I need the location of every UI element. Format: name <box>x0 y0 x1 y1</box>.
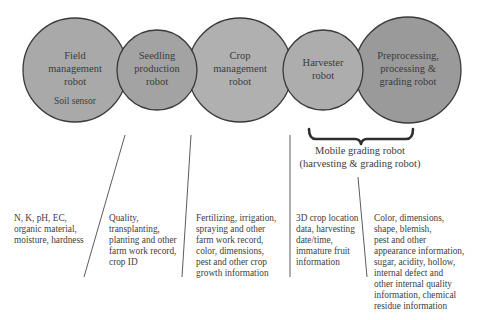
label-soil-sensor: Soil sensor <box>25 96 125 106</box>
info-field-management: N, K, pH, EC, organic material, moisture… <box>14 213 84 246</box>
info-line: other internal quality <box>374 279 464 290</box>
info-line: pest and other crop <box>196 257 276 268</box>
info-line: Quality, <box>109 213 177 224</box>
label-harvester-robot: Harvester robot <box>283 56 363 82</box>
label-line: management <box>190 62 290 75</box>
info-seedling-production: Quality, transplanting, planting and oth… <box>109 213 177 268</box>
label-line: Crop <box>190 49 290 62</box>
info-line: immature fruit <box>296 246 358 257</box>
label-line: management <box>25 62 125 75</box>
curly-brace <box>309 129 413 144</box>
info-line: N, K, pH, EC, <box>14 213 84 224</box>
divider-line-2 <box>182 135 191 277</box>
info-line: moisture, hardness <box>14 235 84 246</box>
info-line: date/time, <box>296 235 358 246</box>
info-line: transplanting, <box>109 224 177 235</box>
info-harvester: 3D crop location data, harvesting date/t… <box>296 213 358 268</box>
info-line: 3D crop location <box>296 213 358 224</box>
label-mobile-grading-robot: Mobile grading robot (harvesting & gradi… <box>290 144 430 170</box>
label-seedling-production-robot: Seedling production robot <box>117 49 197 88</box>
info-line: shape, blemish, <box>374 224 464 235</box>
label-line: production <box>117 62 197 75</box>
info-line: internal defect and <box>374 268 464 279</box>
info-line: farm work record, <box>196 235 276 246</box>
label-line: Field <box>25 49 125 62</box>
info-line: data, harvesting <box>296 224 358 235</box>
info-line: organic material, <box>14 224 84 235</box>
label-crop-management-robot: Crop management robot <box>190 49 290 88</box>
info-line: residue information <box>374 301 464 312</box>
info-line: planting and other <box>109 235 177 246</box>
info-line: appearance information, <box>374 246 464 257</box>
info-line: farm work record, <box>109 246 177 257</box>
info-line: Color, dimensions, <box>374 213 464 224</box>
label-line: Seedling <box>117 49 197 62</box>
label-line: robot <box>117 75 197 88</box>
brace-label-line: (harvesting & grading robot) <box>290 157 430 170</box>
label-line: robot <box>283 69 363 82</box>
label-line: Harvester <box>283 56 363 69</box>
label-field-management-robot: Field management robot <box>25 49 125 88</box>
label-line: robot <box>190 75 290 88</box>
label-line: robot <box>25 75 125 88</box>
label-line: processing & <box>358 62 458 75</box>
divider-line-4 <box>358 177 367 277</box>
info-line: growth information <box>196 268 276 279</box>
info-line: information <box>296 257 358 268</box>
label-line: Preprocessing, <box>358 49 458 62</box>
info-line: spraying and other <box>196 224 276 235</box>
info-line: crop ID <box>109 257 177 268</box>
info-line: pest and other <box>374 235 464 246</box>
info-line: Fertilizing, irrigation, <box>196 213 276 224</box>
brace-label-line: Mobile grading robot <box>290 144 430 157</box>
label-preprocessing-robot: Preprocessing, processing & grading robo… <box>358 49 458 88</box>
info-line: information, chemical <box>374 290 464 301</box>
info-line: color, dimensions, <box>196 246 276 257</box>
info-preprocessing: Color, dimensions, shape, blemish, pest … <box>374 213 464 312</box>
label-line: grading robot <box>358 75 458 88</box>
info-crop-management: Fertilizing, irrigation, spraying and ot… <box>196 213 276 279</box>
info-line: sugar, acidity, hollow, <box>374 257 464 268</box>
